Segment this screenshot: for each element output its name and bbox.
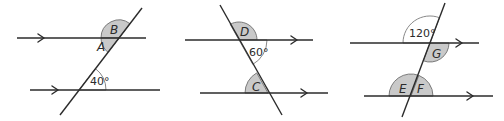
label-f: F <box>417 82 425 96</box>
label-d: D <box>240 25 249 39</box>
label-e: E <box>399 82 407 96</box>
diagram-2: D 60° C <box>185 5 328 115</box>
label-g: G <box>432 47 441 61</box>
diagram-3: 120° G E F <box>350 3 493 117</box>
label-b: B <box>110 23 118 37</box>
diagram-1: B A 40° <box>17 8 160 115</box>
transversal-line <box>60 8 142 115</box>
label-c: C <box>252 80 261 94</box>
label-given-angle: 120° <box>409 27 436 40</box>
label-given-angle: 60° <box>249 46 269 59</box>
parallel-lines-angle-diagrams: B A 40° D 60° C 120° G <box>0 0 504 121</box>
label-given-angle: 40° <box>90 75 110 88</box>
transversal-line <box>220 5 282 115</box>
label-a: A <box>96 40 105 54</box>
